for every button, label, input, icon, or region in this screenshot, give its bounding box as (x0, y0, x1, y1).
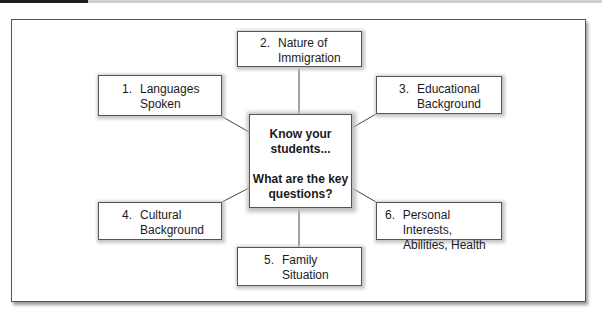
node-number: 1. (122, 82, 140, 97)
node-label: Spoken (140, 97, 181, 112)
center-text: students... (250, 142, 351, 157)
center-text: Know your (250, 127, 351, 142)
node-label: Situation (282, 268, 329, 283)
center-text: questions? (250, 187, 351, 202)
node-personal-interests: 6.Personal Interests, Abilities, Health (376, 202, 502, 240)
node-educational-background: 3.Educational Background (376, 76, 502, 114)
node-number: 6. (385, 208, 403, 238)
node-cultural-background: 4.Cultural Background (98, 202, 222, 240)
center-text: What are the key (250, 172, 351, 187)
central-question-box: Know your students... What are the key q… (249, 114, 352, 208)
node-label: Background (417, 97, 481, 112)
node-number: 5. (264, 253, 282, 268)
node-label: Cultural (140, 208, 181, 223)
node-label: Personal Interests, (403, 208, 501, 238)
node-label: Languages (140, 82, 199, 97)
node-label: Educational (417, 82, 480, 97)
node-number: 4. (122, 208, 140, 223)
node-family-situation: 5.Family Situation (237, 247, 362, 286)
node-label: Immigration (278, 51, 341, 66)
node-nature-of-immigration: 2.Nature of Immigration (237, 31, 362, 67)
node-languages-spoken: 1.Languages Spoken (98, 75, 222, 116)
node-number: 2. (260, 36, 278, 51)
node-label: Nature of (278, 36, 327, 51)
node-label: Family (282, 253, 317, 268)
node-label: Abilities, Health (403, 238, 486, 253)
node-label: Background (140, 223, 204, 238)
node-number: 3. (399, 82, 417, 97)
